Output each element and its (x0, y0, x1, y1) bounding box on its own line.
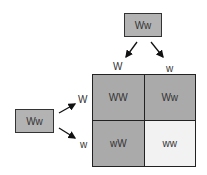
arrow-left-down (59, 128, 75, 138)
cell-wW: wW (93, 121, 144, 166)
cell-Ww: Ww (145, 75, 196, 120)
top-gamete-1: W (113, 62, 122, 72)
top-gamete-2: w (166, 64, 173, 74)
arrow-top-right (151, 42, 163, 57)
arrow-left-up (59, 104, 75, 113)
cell-ww: ww (145, 121, 196, 166)
cell-text: WW (109, 92, 128, 103)
cell-text: wW (110, 138, 127, 149)
arrow-top-left (126, 42, 137, 57)
punnett-square: WW Ww wW ww (92, 74, 196, 167)
left-gamete-2: w (80, 140, 87, 150)
cell-text: Ww (161, 92, 178, 103)
left-gamete-1: W (78, 95, 87, 105)
cell-WW: WW (93, 75, 144, 120)
cell-text: ww (163, 138, 177, 149)
